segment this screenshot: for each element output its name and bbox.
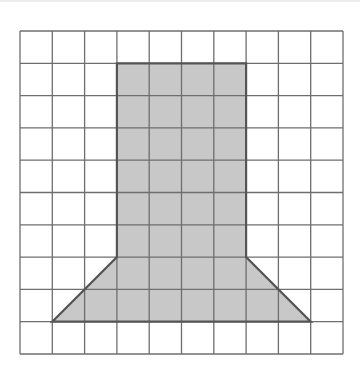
top-border xyxy=(0,0,360,2)
diagram-canvas xyxy=(0,0,360,381)
grid-figure xyxy=(0,0,360,381)
